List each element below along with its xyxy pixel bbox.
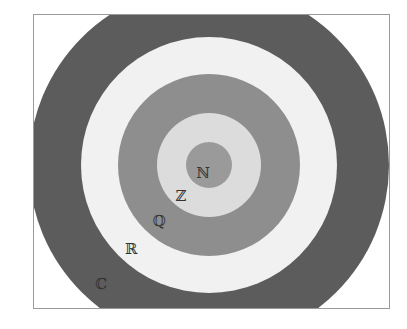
label-R: ℝ bbox=[125, 242, 137, 257]
label-N: ℕ bbox=[196, 166, 210, 181]
label-C: ℂ bbox=[95, 277, 107, 292]
label-Z: ℤ bbox=[176, 189, 187, 204]
diagram-frame: ℂ ℝ ℚ ℤ ℕ bbox=[33, 14, 390, 309]
label-Q: ℚ bbox=[152, 214, 165, 229]
